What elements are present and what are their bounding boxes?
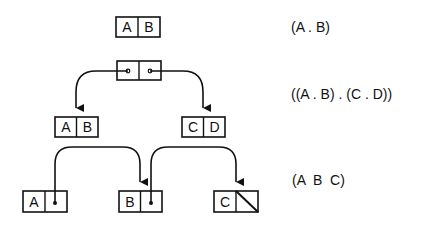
cdr-label: B — [144, 19, 153, 35]
cons-cell-top: A B — [116, 17, 160, 37]
cons-cell-left: A B — [55, 117, 98, 137]
nil-slash-icon — [236, 191, 258, 212]
car-label: C — [188, 119, 198, 135]
car-label: A — [29, 194, 39, 210]
car-label: C — [220, 194, 230, 210]
car-label: A — [122, 19, 132, 35]
diagram-canvas: A B A B C D A B C — [0, 0, 422, 227]
notation-dotted-pair: (A . B) — [291, 19, 330, 35]
car-label: B — [125, 194, 134, 210]
notation-nested-pair: ((A . B) . (C . D)) — [291, 86, 392, 102]
notation-list: (A B C) — [292, 172, 345, 188]
cdr-label: D — [209, 119, 219, 135]
cdr-label: B — [83, 119, 92, 135]
car-label: A — [61, 119, 71, 135]
cons-cell-list-c: C — [214, 191, 258, 212]
cons-cell-right: C D — [182, 117, 225, 137]
cdr-arrow — [150, 71, 203, 108]
cons-cell-list-b: B — [119, 191, 162, 212]
cons-cell-list-a: A — [23, 191, 67, 212]
car-arrow — [76, 71, 128, 108]
